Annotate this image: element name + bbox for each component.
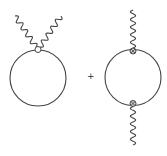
plus-operator: + <box>87 71 95 81</box>
scalar-loop-left <box>10 50 66 106</box>
scalar-loop-right <box>105 50 161 106</box>
photon-line-up-left <box>15 16 37 47</box>
term-bubble-loop <box>105 10 161 145</box>
feynman-diagram-canvas: + <box>0 0 167 156</box>
photon-line-up-right <box>40 16 62 47</box>
vertex-top <box>130 48 136 54</box>
photon-line-top <box>130 10 135 48</box>
term-seagull-loop <box>10 16 66 106</box>
seagull-vertex <box>35 47 41 53</box>
photon-line-bottom <box>130 107 135 146</box>
vertex-bottom <box>130 101 136 107</box>
